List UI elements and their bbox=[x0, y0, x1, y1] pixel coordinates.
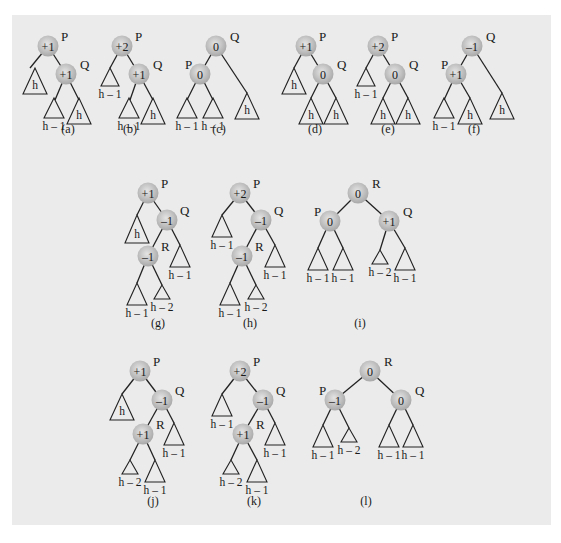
subtree-height-label: h bbox=[499, 104, 505, 116]
subtree-triangle: h – 1 bbox=[307, 248, 330, 284]
subtree-triangle: h bbox=[396, 98, 420, 124]
subtree-height-label: h – 1 bbox=[433, 120, 456, 132]
diagram-group-root: hh – 1h+1P+1Q(a)h – 1h – 1h+2P+1Q(b)h – … bbox=[23, 29, 514, 508]
node-name: Q bbox=[403, 204, 413, 219]
tree-node-P: 0P bbox=[314, 204, 341, 232]
tree-diagram-c: h – 1h – 1h0Q0P(c) bbox=[176, 29, 260, 136]
subtree-triangle: h – 2 bbox=[245, 285, 268, 313]
tree-diagram-a: hh – 1h+1P+1Q(a) bbox=[23, 29, 91, 136]
subtree-triangle: h – 1 bbox=[246, 460, 269, 496]
node-name: R bbox=[256, 417, 265, 432]
tree-node-P: +2P bbox=[112, 29, 143, 57]
subtree-height-label: h – 1 bbox=[211, 418, 234, 430]
tree-diagram-k: h – 1h – 1h – 2h – 1+2P–1Q+1R(k) bbox=[211, 354, 287, 508]
subtree-triangle: h bbox=[299, 98, 323, 124]
tree-diagram-d: hhh+1P0Q(d) bbox=[282, 29, 348, 136]
node-name: R bbox=[161, 239, 170, 254]
tree-node-P: +1P bbox=[38, 29, 69, 57]
balance-factor: +2 bbox=[234, 187, 247, 201]
balance-factor: 0 bbox=[320, 68, 326, 82]
tree-diagram-g: hh – 1h – 1h – 2+1P–1Q–1R(g) bbox=[125, 176, 192, 330]
subtree-height-label: h bbox=[380, 109, 386, 121]
node-name: R bbox=[372, 176, 381, 191]
subtree-triangle: h – 1 bbox=[126, 283, 149, 319]
subtree-height-label: h bbox=[150, 109, 156, 121]
subtree-height-label: h bbox=[467, 109, 473, 121]
balance-factor: +1 bbox=[42, 40, 55, 54]
subtree-height-label: h – 1 bbox=[264, 447, 287, 459]
subtree-height-label: h – 2 bbox=[338, 444, 361, 456]
tree-node-Q: 0Q bbox=[391, 383, 426, 411]
tree-node-Q: 0Q bbox=[385, 57, 420, 85]
node-name: P bbox=[153, 354, 160, 369]
subtree-triangle: h – 1 bbox=[219, 283, 242, 319]
node-name: Q bbox=[180, 203, 190, 218]
balance-factor: +2 bbox=[234, 365, 247, 379]
balance-factor: –1 bbox=[254, 214, 267, 228]
node-name: P bbox=[253, 354, 260, 369]
balance-factor: –1 bbox=[155, 394, 168, 408]
node-name: P bbox=[161, 176, 168, 191]
balance-factor: –1 bbox=[256, 394, 269, 408]
avl-rotation-diagrams: hh – 1h+1P+1Q(a)h – 1h – 1h+2P+1Q(b)h – … bbox=[0, 0, 561, 543]
subtree-triangle: h – 1 bbox=[99, 68, 122, 100]
node-name: Q bbox=[80, 57, 90, 72]
subtree-height-label: h – 1 bbox=[163, 447, 186, 459]
balance-factor: –1 bbox=[328, 394, 341, 408]
subtree-height-label: h – 1 bbox=[126, 307, 149, 319]
balance-factor: –1 bbox=[160, 214, 173, 228]
subtree-height-label: h – 1 bbox=[402, 449, 425, 461]
tree-node-P: +2P bbox=[230, 354, 261, 382]
subtree-height-label: h – 1 bbox=[219, 307, 242, 319]
balance-factor: +1 bbox=[383, 215, 396, 229]
subtree-triangle: h – 1 bbox=[378, 425, 401, 461]
diagram-caption: (k) bbox=[247, 494, 261, 508]
subtree-triangle: h bbox=[67, 98, 91, 124]
subtree-triangle: h – 1 bbox=[211, 394, 234, 430]
subtree-height-label: h – 1 bbox=[211, 239, 234, 251]
node-name: Q bbox=[486, 29, 496, 44]
subtree-height-label: h – 1 bbox=[394, 272, 417, 284]
balance-factor: 0 bbox=[398, 394, 404, 408]
subtree-height-label: h bbox=[119, 405, 125, 417]
subtree-height-label: h bbox=[76, 109, 82, 121]
subtree-triangle: h – 2 bbox=[220, 460, 243, 488]
subtree-triangle: h – 1 bbox=[264, 245, 287, 281]
subtree-height-label: h – 1 bbox=[169, 269, 192, 281]
tree-node-Q: –1Q bbox=[157, 203, 191, 231]
node-name: R bbox=[156, 417, 165, 432]
tree-node-R: 0R bbox=[348, 176, 382, 204]
balance-factor: +1 bbox=[450, 68, 463, 82]
node-name: R bbox=[384, 354, 393, 369]
tree-diagram-b: h – 1h – 1h+2P+1Q(b) bbox=[99, 29, 166, 136]
tree-diagram-l: h – 1h – 2h – 1h – 10R–1P0Q(l) bbox=[312, 354, 426, 508]
diagram-caption: (a) bbox=[61, 122, 74, 136]
subtree-triangle: h – 1 bbox=[211, 215, 234, 251]
tree-node-Q: –1Q bbox=[462, 29, 497, 57]
tree-node-Q: +1Q bbox=[56, 57, 91, 85]
node-name: Q bbox=[274, 203, 284, 218]
balance-factor: +1 bbox=[300, 40, 313, 54]
balance-factor: 0 bbox=[367, 365, 373, 379]
node-name: P bbox=[185, 57, 192, 72]
node-name: Q bbox=[230, 29, 240, 44]
balance-factor: +1 bbox=[60, 68, 73, 82]
subtree-height-label: h – 2 bbox=[119, 476, 142, 488]
tree-node-Q: 0Q bbox=[206, 29, 241, 57]
tree-diagram-h: h – 1h – 1h – 1h – 2+2P–1Q–1R(h) bbox=[211, 176, 287, 330]
subtree-height-label: h – 1 bbox=[99, 88, 122, 100]
subtree-triangle: h – 1 bbox=[169, 245, 192, 281]
balance-factor: 0 bbox=[197, 68, 203, 82]
subtree-height-label: h – 2 bbox=[245, 301, 268, 313]
subtree-triangle: h – 2 bbox=[151, 285, 174, 313]
tree-node-R: +1R bbox=[133, 417, 166, 445]
balance-factor: +1 bbox=[142, 187, 155, 201]
subtree-triangle: h bbox=[282, 68, 306, 94]
diagram-caption: (b) bbox=[123, 122, 137, 136]
balance-factor: +1 bbox=[237, 428, 250, 442]
subtree-triangle: h – 1 bbox=[264, 423, 287, 459]
diagram-caption: (g) bbox=[151, 316, 165, 330]
node-name: P bbox=[319, 383, 326, 398]
subtree-triangle: h bbox=[371, 98, 395, 124]
subtree-triangle: h bbox=[490, 93, 514, 119]
